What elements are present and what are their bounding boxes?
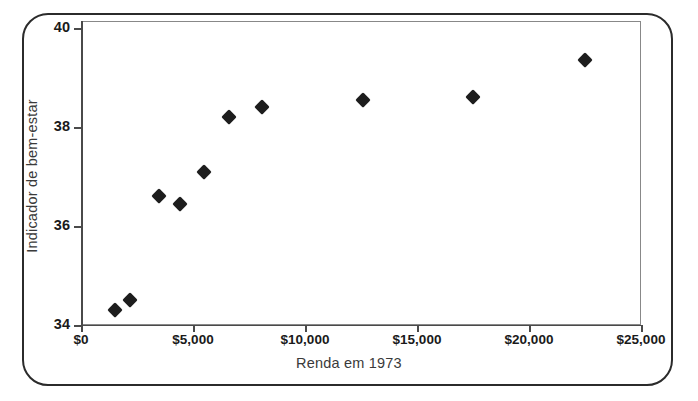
y-tick-label: 36: [44, 218, 70, 233]
y-tick-mark: [74, 28, 81, 30]
plot-area-frame: [81, 21, 641, 325]
y-tick-label: 38: [44, 119, 70, 134]
y-tick-label: 40: [44, 20, 70, 35]
x-tick-label: $25,000: [617, 333, 666, 347]
x-tick-label: $15,000: [393, 333, 442, 347]
y-tick-mark: [74, 226, 81, 228]
x-tick-label: $10,000: [281, 333, 330, 347]
y-axis-title: Indicador de bem-estar: [24, 66, 40, 286]
x-tick-mark: [193, 325, 195, 332]
y-tick-label: 34: [44, 317, 70, 332]
chart-figure: 34363840 $0$5,000$10,000$15,000$20,000$2…: [0, 0, 698, 401]
x-tick-mark: [417, 325, 419, 332]
x-tick-label: $0: [73, 333, 88, 347]
y-axis-line: [81, 21, 83, 326]
y-tick-mark: [74, 127, 81, 129]
x-tick-mark: [529, 325, 531, 332]
x-tick-mark: [305, 325, 307, 332]
x-tick-label: $5,000: [172, 333, 213, 347]
x-tick-label: $20,000: [505, 333, 554, 347]
x-tick-mark: [641, 325, 643, 332]
x-tick-mark: [81, 325, 83, 332]
x-axis-line: [81, 325, 642, 327]
y-tick-mark: [74, 325, 81, 327]
x-axis-title: Renda em 1973: [0, 355, 698, 371]
top-clip-mask: [0, 0, 698, 13]
